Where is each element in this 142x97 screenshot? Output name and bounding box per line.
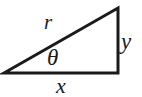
vertical-leg-label-y: y [121, 30, 131, 53]
right-triangle-figure: r θ y x [0, 0, 142, 97]
triangle-outline [4, 8, 118, 73]
hypotenuse-label-r: r [44, 12, 52, 33]
angle-label-theta: θ [47, 46, 58, 69]
horizontal-leg-label-x: x [56, 75, 66, 97]
